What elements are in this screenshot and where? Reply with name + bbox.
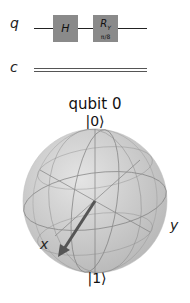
bloch-sphere [0, 0, 190, 303]
x-axis-label: x [40, 236, 48, 252]
y-axis-label: y [170, 217, 178, 233]
south-pole-label: |1⟩ [82, 270, 112, 286]
